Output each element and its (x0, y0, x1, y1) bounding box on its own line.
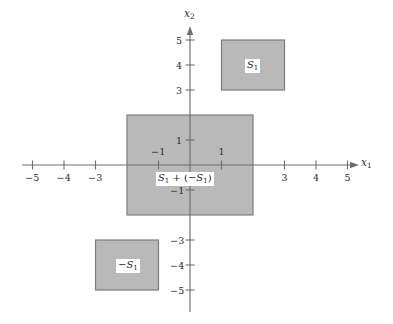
y-tick-label--5: −5 (170, 286, 184, 296)
y-tick-label-4: 4 (176, 61, 182, 71)
x-axis-name: x1 (361, 157, 372, 169)
x-tick-label--4: −4 (57, 173, 71, 183)
y-tick-label-5: 5 (176, 36, 182, 46)
x-tick-label--1: −1 (151, 147, 165, 157)
y-tick-label--1: −1 (170, 186, 184, 196)
x-axis-arrowhead-icon (350, 162, 359, 168)
region-label-sum: S1 + (−S1) (156, 172, 214, 186)
region-label-sum-close-paren: ) (208, 172, 212, 183)
x-tick-label--5: −5 (25, 173, 39, 183)
region-label-negative-S1: −S1 (116, 259, 140, 273)
x-tick-label-3: 3 (282, 173, 288, 183)
region-label-negative-S1-subscript: 1 (133, 264, 137, 272)
y-tick-label--4: −4 (170, 261, 184, 271)
set-addition-diagram: x1 x2 −5 −4 −3 −1 1 3 4 5 5 4 3 1 −1 −3 … (0, 0, 393, 324)
y-axis-name: x2 (184, 8, 195, 20)
y-tick-label-3: 3 (176, 86, 182, 96)
y-tick-label--3: −3 (170, 236, 184, 246)
region-label-S1-subscript: 1 (254, 64, 258, 72)
x-tick-label-1: 1 (219, 147, 225, 157)
y-tick-label-1: 1 (176, 136, 182, 146)
y-axis-arrowhead-icon (187, 26, 193, 35)
y-axis-subscript: 2 (190, 12, 195, 21)
x-axis-subscript: 1 (367, 161, 372, 170)
x-tick-label--3: −3 (88, 173, 102, 183)
region-label-S1: S1 (245, 59, 260, 73)
region-label-sum-operator: + (− (169, 172, 196, 183)
plot-canvas (0, 0, 393, 324)
x-tick-label-4: 4 (313, 173, 319, 183)
x-tick-label-5: 5 (345, 173, 351, 183)
